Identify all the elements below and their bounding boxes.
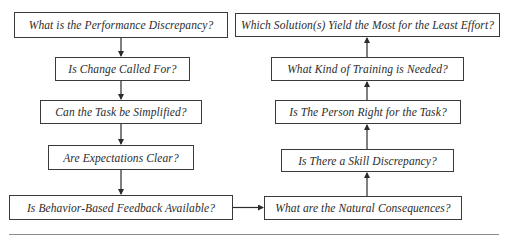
box-label: Is Change Called For? [68,63,176,75]
box-label: What are the Natural Consequences? [275,202,450,214]
box-label: Can the Task be Simplified? [55,106,186,118]
box-natural-consequences: What are the Natural Consequences? [264,196,462,220]
box-change-called-for: Is Change Called For? [55,57,190,81]
box-label: Is Behavior-Based Feedback Available? [27,202,215,214]
box-solution-most-least-effort: Which Solution(s) Yield the Most for the… [235,13,500,37]
box-performance-discrepancy: What is the Performance Discrepancy? [14,12,228,38]
box-label: What Kind of Training is Needed? [287,63,448,75]
box-label: Which Solution(s) Yield the Most for the… [241,19,494,31]
box-skill-discrepancy: Is There a Skill Discrepancy? [281,149,454,172]
box-label: Is The Person Right for the Task? [289,106,447,118]
box-label: Are Expectations Clear? [63,152,179,164]
box-label: What is the Performance Discrepancy? [29,19,214,31]
box-training-needed: What Kind of Training is Needed? [271,57,464,81]
box-behavior-feedback: Is Behavior-Based Feedback Available? [9,195,233,220]
bottom-divider [9,234,499,235]
box-expectations-clear: Are Expectations Clear? [48,145,194,170]
box-person-right-for-task: Is The Person Right for the Task? [275,100,461,124]
box-task-simplified: Can the Task be Simplified? [40,100,202,124]
box-label: Is There a Skill Discrepancy? [298,155,437,167]
